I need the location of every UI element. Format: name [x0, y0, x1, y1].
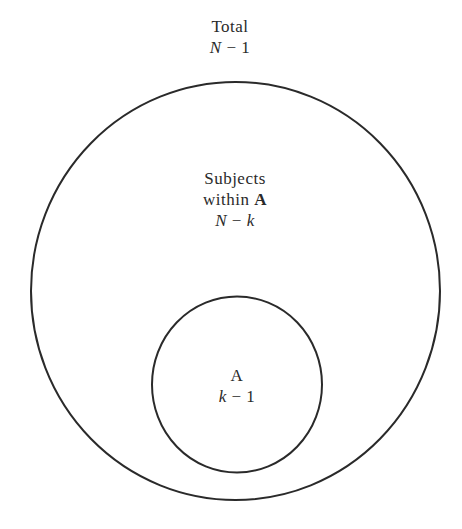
total-label: Total N − 1: [180, 16, 280, 58]
total-var: N: [210, 38, 222, 57]
a-op: −: [227, 387, 247, 406]
total-title: Total: [180, 16, 280, 37]
total-op: −: [222, 38, 242, 57]
total-num: 1: [241, 38, 250, 57]
subjects-within-a-label: Subjects within A N − k: [165, 168, 305, 231]
subjects-expression: N − k: [165, 210, 305, 231]
venn-diagram: [0, 0, 462, 529]
a-expression: k − 1: [187, 386, 287, 407]
subjects-op: −: [227, 211, 247, 230]
a-num: 1: [246, 387, 255, 406]
a-title: A: [187, 365, 287, 386]
subjects-line1: Subjects: [165, 168, 305, 189]
subjects-line2: within A: [165, 189, 305, 210]
within-text: within: [203, 190, 254, 209]
total-expression: N − 1: [180, 37, 280, 58]
a-var: k: [219, 387, 227, 406]
within-set-name: A: [254, 190, 267, 209]
outer-circle-total: [31, 82, 440, 500]
a-label: A k − 1: [187, 365, 287, 407]
subjects-var2: k: [247, 211, 255, 230]
subjects-var: N: [215, 211, 227, 230]
